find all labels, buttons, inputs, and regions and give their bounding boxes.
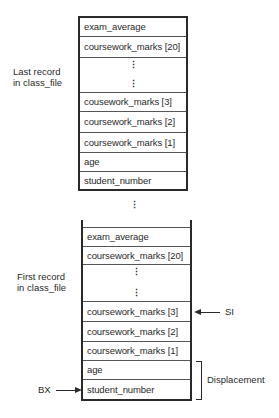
vertical-ellipsis-icon: ⋮ xyxy=(129,80,138,89)
field-coursework-marks-1: coursework_marks [1] xyxy=(83,342,190,361)
field-ellipsis: ⋮ ⋮ xyxy=(83,265,190,302)
field-coursework-marks-3: coursework_marks [3] xyxy=(83,302,190,322)
last-record-label-line2: in class_file xyxy=(13,77,62,88)
field-exam-average: exam_average xyxy=(80,18,186,37)
first-record-label-line1: First record xyxy=(17,271,66,282)
field-exam-average: exam_average xyxy=(83,228,190,247)
last-record-label-line1: Last record xyxy=(13,66,62,77)
last-record-label: Last record in class_file xyxy=(13,66,62,88)
field-coursework-marks-3: cousework_marks [3] xyxy=(80,93,186,112)
first-record-label-line2: in class_file xyxy=(17,282,66,293)
field-coursework-marks-20: coursework_marks [20] xyxy=(80,37,186,58)
vertical-ellipsis-icon: ⋮ xyxy=(130,201,139,210)
field-coursework-marks-2: coursework_marks [2] xyxy=(80,112,186,133)
si-label: SI xyxy=(225,307,234,317)
arrow-right-icon xyxy=(75,387,82,393)
first-record-label: First record in class_file xyxy=(17,271,66,293)
field-coursework-marks-2: coursework_marks [2] xyxy=(83,322,190,342)
field-ellipsis: ⋮ ⋮ xyxy=(80,58,186,93)
si-arrow-line xyxy=(200,312,220,313)
vertical-ellipsis-icon: ⋮ xyxy=(132,289,141,298)
bx-label: BX xyxy=(38,385,51,395)
vertical-ellipsis-icon: ⋮ xyxy=(129,61,138,70)
field-student-number: student_number xyxy=(83,380,190,399)
bx-arrow-line xyxy=(56,390,75,391)
field-age: age xyxy=(83,361,190,380)
first-record-box: exam_average coursework_marks [20] ⋮ ⋮ c… xyxy=(81,220,192,401)
field-student-number: student_number xyxy=(80,172,186,189)
last-record-box: exam_average coursework_marks [20] ⋮ ⋮ c… xyxy=(78,16,188,191)
field-coursework-marks-1: coursework_marks [1] xyxy=(80,133,186,153)
displacement-label: Displacement xyxy=(207,375,265,385)
vertical-ellipsis-icon: ⋮ xyxy=(132,268,141,277)
field-coursework-marks-20: coursework_marks [20] xyxy=(83,247,190,265)
field-age: age xyxy=(80,153,186,172)
displacement-bracket xyxy=(196,361,202,400)
